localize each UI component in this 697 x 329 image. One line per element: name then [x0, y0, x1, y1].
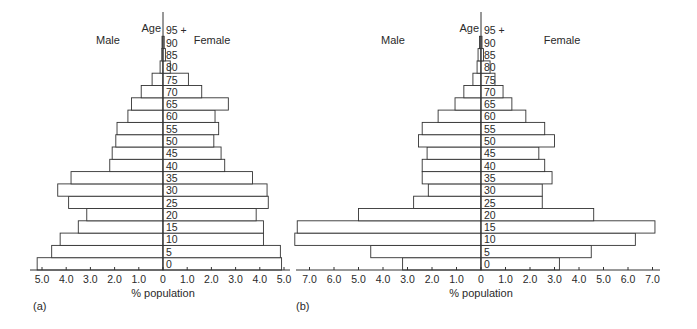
x-tick-label: 6.0	[621, 273, 636, 285]
x-tick-label: 7.0	[302, 273, 317, 285]
female-label: Female	[544, 34, 581, 46]
bar-female-age-10	[481, 233, 635, 245]
age-label: 70	[484, 86, 496, 98]
age-label: 60	[484, 110, 496, 122]
age-label: 60	[166, 110, 178, 122]
x-tick-label: 7.0	[645, 273, 660, 285]
age-label: 30	[166, 184, 178, 196]
x-tick-label: 3.0	[400, 273, 415, 285]
bar-male-age-65	[455, 98, 481, 110]
age-label: 45	[166, 147, 178, 159]
panel-label: (b)	[296, 300, 309, 312]
bar-male-age-65	[132, 98, 163, 110]
x-tick-label: 0	[478, 273, 484, 285]
x-tick-label: 5.0	[35, 273, 50, 285]
x-tick-label: 3.0	[547, 273, 562, 285]
bar-male-age-5	[52, 245, 163, 257]
x-tick-label: 2.0	[523, 273, 538, 285]
age-label: 90	[166, 37, 178, 49]
x-tick-label: 5.0	[277, 273, 292, 285]
age-label: 20	[166, 209, 178, 221]
x-tick-label: 2.0	[425, 273, 440, 285]
x-tick-label: 5.0	[351, 273, 366, 285]
panel-label: (a)	[33, 300, 46, 312]
x-tick-label: 1.0	[498, 273, 513, 285]
bar-male-age-35	[422, 172, 481, 184]
bar-female-age-20	[481, 209, 594, 221]
pyramid-panel-a: 05101520253035404550556065707580859095 +…	[30, 12, 291, 312]
bar-male-age-60	[438, 110, 481, 122]
age-label: 5	[484, 246, 490, 258]
bar-male-age-50	[116, 135, 163, 147]
x-tick-label: 2.0	[107, 273, 122, 285]
age-label: 40	[166, 160, 178, 172]
age-label: 90	[484, 37, 496, 49]
bar-female-age-10	[163, 233, 263, 245]
age-label: 80	[484, 61, 496, 73]
x-tick-label: 4.0	[252, 273, 267, 285]
bar-male-age-10	[295, 233, 481, 245]
age-label: 85	[166, 49, 178, 61]
bar-male-age-70	[141, 86, 163, 98]
bar-female-age-5	[163, 245, 280, 257]
age-label: 0	[166, 258, 172, 270]
bar-male-age-60	[128, 110, 163, 122]
age-label: 20	[484, 209, 496, 221]
bar-female-age-0	[163, 258, 282, 270]
age-label: 65	[166, 98, 178, 110]
x-tick-label: 1.0	[180, 273, 195, 285]
age-label: 70	[166, 86, 178, 98]
bar-female-age-30	[163, 184, 267, 196]
x-tick-label: 2.0	[204, 273, 219, 285]
age-label: 85	[484, 49, 496, 61]
bar-male-age-30	[58, 184, 163, 196]
female-label: Female	[194, 34, 231, 46]
x-tick-label: 6.0	[327, 273, 342, 285]
bar-male-age-40	[422, 159, 481, 171]
age-label: 5	[166, 246, 172, 258]
bar-female-age-25	[163, 196, 268, 208]
population-pyramids-figure: 05101520253035404550556065707580859095 +…	[0, 0, 697, 329]
bar-male-age-15	[297, 221, 481, 233]
bar-female-age-15	[163, 221, 263, 233]
age-label: 40	[484, 160, 496, 172]
x-axis-title: % population	[449, 287, 513, 299]
bar-male-age-55	[117, 122, 163, 134]
bar-female-age-5	[481, 245, 591, 257]
bar-male-age-0	[403, 258, 481, 270]
bar-male-age-15	[78, 221, 163, 233]
y-axis-title: Age	[141, 22, 161, 34]
x-tick-label: 5.0	[596, 273, 611, 285]
age-label: 75	[166, 74, 178, 86]
bar-male-age-45	[112, 147, 163, 159]
x-tick-label: 4.0	[59, 273, 74, 285]
bar-male-age-55	[422, 122, 481, 134]
bar-male-age-45	[427, 147, 481, 159]
bar-male-age-20	[87, 209, 163, 221]
age-label: 45	[484, 147, 496, 159]
male-label: Male	[381, 34, 405, 46]
bar-male-age-40	[110, 159, 163, 171]
age-label: 35	[484, 172, 496, 184]
age-label: 95 +	[484, 24, 505, 36]
bar-male-age-25	[414, 196, 481, 208]
age-label: 75	[484, 74, 496, 86]
y-axis-title: Age	[459, 22, 479, 34]
age-label: 10	[166, 233, 178, 245]
bar-male-age-35	[71, 172, 163, 184]
x-tick-label: 4.0	[376, 273, 391, 285]
age-label: 10	[484, 233, 496, 245]
age-label: 65	[484, 98, 496, 110]
age-label: 35	[166, 172, 178, 184]
age-label: 95 +	[166, 24, 187, 36]
x-tick-label: 3.0	[83, 273, 98, 285]
age-label: 80	[166, 61, 178, 73]
age-label: 55	[166, 123, 178, 135]
bar-male-age-75	[152, 73, 163, 85]
age-label: 30	[484, 184, 496, 196]
bar-male-age-0	[37, 258, 163, 270]
bar-male-age-70	[464, 86, 481, 98]
x-tick-label: 4.0	[572, 273, 587, 285]
x-tick-label: 1.0	[131, 273, 146, 285]
x-tick-label: 0	[160, 273, 166, 285]
